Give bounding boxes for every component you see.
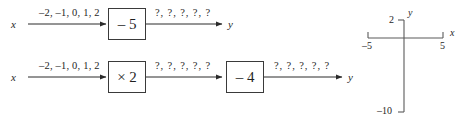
row2-machine-2-label: – 4 [236,69,255,86]
y-max-label: 2 [389,15,394,25]
row1-output-values: ?, ?, ?, ?, ? [155,8,211,19]
row2-input-values: –2, –1, 0, 1, 2 [39,61,100,72]
row2-machine-1-label: × 2 [117,69,137,86]
x-min-label: –5 [362,41,372,51]
y-min-label: –10 [377,106,392,116]
y-axis-label: y [408,8,412,18]
row2-input-variable: x [11,72,16,83]
row1-machine-1[interactable]: – 5 [108,8,146,40]
row1-machine-1-label: – 5 [118,16,137,33]
row2-machine-2[interactable]: – 4 [226,61,264,93]
row2-machine-1[interactable]: × 2 [108,61,146,93]
x-axis-label: x [450,28,454,38]
x-max-label: 5 [440,41,445,51]
row2-output-values: ?, ?, ?, ?, ? [274,61,330,72]
row1-output-variable: y [228,19,233,30]
row1-input-variable: x [11,19,16,30]
row2-output-variable: y [348,72,353,83]
diagram-canvas: x –2, –1, 0, 1, 2 – 5 ?, ?, ?, ?, ? y x … [0,0,464,122]
row2-middle-values: ?, ?, ?, ?, ? [155,61,211,72]
row1-input-values: –2, –1, 0, 1, 2 [39,8,100,19]
